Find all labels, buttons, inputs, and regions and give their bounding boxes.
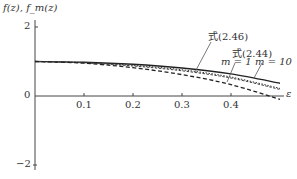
y-tick-0: 0 — [24, 89, 30, 100]
x-tick-0.3: 0.3 — [174, 99, 190, 110]
x-tick-0.1: 0.1 — [76, 99, 92, 110]
annotation-eq246: 式(2.46) — [208, 28, 248, 43]
leader-246 — [195, 42, 211, 72]
x-axis-label: ε — [286, 88, 291, 99]
annotation-m1: m = 1 — [221, 56, 252, 67]
y-tick-neg2: −2 — [16, 158, 31, 169]
series-group — [35, 62, 280, 100]
y-axis-label: f(z), f_m(z) — [3, 2, 57, 13]
y-tick-2: 2 — [24, 20, 30, 31]
x-tick-0.4: 0.4 — [223, 99, 239, 110]
annotation-m10: m = 10 — [255, 56, 292, 67]
x-tick-0.2: 0.2 — [125, 99, 141, 110]
chart-plot — [0, 0, 297, 179]
